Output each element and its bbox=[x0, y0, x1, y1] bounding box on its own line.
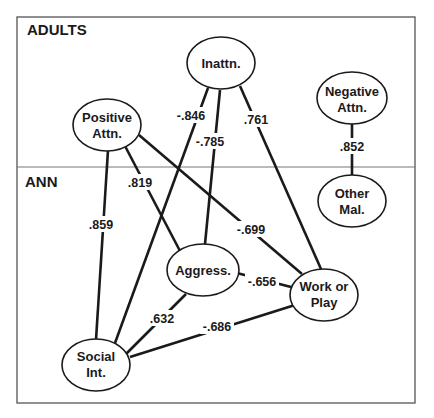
node-other-mal-label-line2: Mal. bbox=[339, 202, 364, 217]
node-negative-attn: Negative Attn. bbox=[317, 72, 387, 124]
node-work-or-play: Work or Play bbox=[290, 269, 358, 321]
node-social-int-label-line1: Social bbox=[77, 349, 115, 364]
edge-label-negative-othermal: .852 bbox=[340, 140, 364, 154]
node-social-int: Social Int. bbox=[62, 339, 130, 391]
node-aggress-label: Aggress. bbox=[175, 263, 231, 278]
edge-label-aggress-work: -.656 bbox=[248, 275, 277, 289]
node-inattn-label: Inattn. bbox=[202, 56, 241, 71]
edge-label-social-work: -.686 bbox=[203, 320, 232, 334]
node-negative-attn-label-line1: Negative bbox=[325, 84, 379, 99]
node-other-mal-label-line1: Other bbox=[335, 186, 370, 201]
node-positive-attn-label-line2: Attn. bbox=[92, 126, 122, 141]
node-positive-attn-shape bbox=[73, 99, 141, 151]
section-label-adults: ADULTS bbox=[27, 21, 87, 38]
node-positive-attn-label-line1: Positive bbox=[82, 110, 132, 125]
node-social-int-label-line2: Int. bbox=[86, 365, 106, 380]
edge-label-inattn-social: -.846 bbox=[177, 109, 206, 123]
node-other-mal-shape bbox=[318, 175, 386, 227]
edge-label-inattn-aggress: -.785 bbox=[196, 135, 225, 149]
node-negative-attn-label-line2: Attn. bbox=[337, 100, 367, 115]
edge-label-aggress-social: .632 bbox=[150, 312, 174, 326]
node-inattn: Inattn. bbox=[187, 37, 255, 89]
node-work-or-play-label-line2: Play bbox=[311, 295, 339, 310]
node-work-or-play-label-line1: Work or bbox=[300, 279, 349, 294]
node-aggress: Aggress. bbox=[167, 244, 239, 296]
node-positive-attn: Positive Attn. bbox=[73, 99, 141, 151]
edge-label-positive-aggress: .819 bbox=[128, 176, 152, 190]
section-label-ann: ANN bbox=[25, 173, 58, 190]
edge-positive-social bbox=[96, 150, 108, 340]
edge-label-positive-social: .859 bbox=[89, 218, 113, 232]
edge-label-inattn-work: .761 bbox=[244, 113, 268, 127]
node-other-mal: Other Mal. bbox=[318, 175, 386, 227]
correlation-diagram: ADULTS ANN -.846 -.785 .761 .852 bbox=[0, 0, 434, 418]
edge-label-positive-work: -.699 bbox=[237, 223, 266, 237]
